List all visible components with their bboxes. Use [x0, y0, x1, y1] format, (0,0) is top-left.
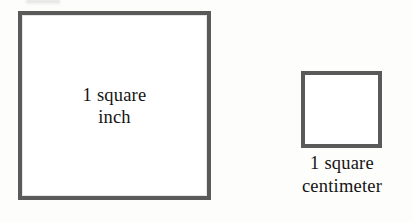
square-centimeter-label-line2: centimeter [283, 175, 401, 198]
square-inch-label-line1: 1 square [83, 85, 147, 105]
square-centimeter-shape [301, 71, 382, 148]
square-centimeter-label: 1 square centimeter [283, 152, 401, 198]
square-centimeter-label-line1: 1 square [310, 153, 374, 173]
square-inch-label-line2: inch [18, 106, 211, 128]
scan-artifact [26, 0, 60, 5]
square-inch-label: 1 square inch [18, 84, 211, 128]
figure-canvas: 1 square inch 1 square centimeter [0, 0, 412, 222]
